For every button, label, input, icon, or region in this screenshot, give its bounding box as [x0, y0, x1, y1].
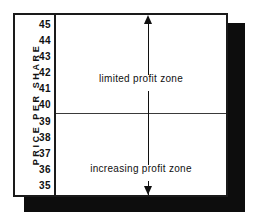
increasing-profit-zone-label: increasing profit zone [56, 163, 226, 175]
chart-frame: PRICE PER SHARE 45 44 43 42 41 40 39 38 … [13, 13, 228, 197]
y-tick-36: 36 [39, 164, 51, 175]
arrow-stem-upper [148, 23, 149, 75]
arrow-down-head-icon [144, 186, 152, 195]
y-axis-tick-list: 45 44 43 42 41 40 39 38 37 36 35 [29, 19, 51, 191]
zone-boundary-line [56, 113, 226, 114]
y-tick-37: 37 [39, 148, 51, 159]
y-tick-44: 44 [39, 35, 51, 46]
price-per-share-profit-zone-diagram: PRICE PER SHARE 45 44 43 42 41 40 39 38 … [0, 0, 265, 222]
y-tick-42: 42 [39, 67, 51, 78]
y-tick-40: 40 [39, 99, 51, 110]
limited-profit-zone-label: limited profit zone [56, 73, 226, 85]
y-tick-41: 41 [39, 83, 51, 94]
y-axis-strip: PRICE PER SHARE 45 44 43 42 41 40 39 38 … [15, 15, 56, 195]
arrow-stem-middle [148, 91, 149, 165]
y-tick-43: 43 [39, 51, 51, 62]
plot-area: limited profit zone increasing profit zo… [56, 15, 226, 195]
y-tick-38: 38 [39, 132, 51, 143]
y-tick-39: 39 [39, 116, 51, 127]
frame-shadow-right [228, 23, 245, 212]
y-tick-35: 35 [39, 180, 51, 191]
frame-shadow-bottom [24, 196, 245, 212]
y-tick-45: 45 [39, 19, 51, 30]
